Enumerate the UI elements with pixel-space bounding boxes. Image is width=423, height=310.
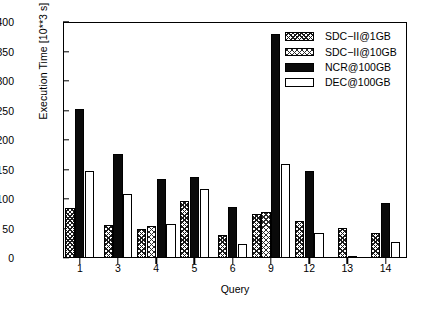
bar xyxy=(391,242,400,258)
bar xyxy=(305,171,314,258)
bar xyxy=(271,34,280,258)
x-tick-mark xyxy=(347,258,348,264)
legend-item: SDC−II@10GB xyxy=(285,45,397,58)
y-tick-label: 100 xyxy=(0,193,14,205)
legend-item: DEC@100GB xyxy=(285,76,397,89)
bar xyxy=(190,177,199,258)
y-tick-label: 0 xyxy=(0,252,14,264)
bar-group xyxy=(104,22,133,258)
bar xyxy=(200,189,209,258)
bar xyxy=(123,194,132,258)
bar xyxy=(104,225,113,258)
legend-swatch xyxy=(285,32,314,41)
legend-label: DEC@100GB xyxy=(325,77,391,88)
y-tick-label: 50 xyxy=(0,223,14,235)
legend-item: SDC−II@1GB xyxy=(285,30,397,43)
bar xyxy=(238,244,247,258)
bar xyxy=(157,179,166,258)
bar xyxy=(261,212,270,258)
bar xyxy=(295,221,304,258)
bar xyxy=(166,224,175,258)
bar xyxy=(85,171,94,258)
bar xyxy=(314,233,323,258)
y-axis-title: Execution Time [10**3 s] xyxy=(37,0,49,146)
bar xyxy=(371,233,380,258)
bar xyxy=(75,109,84,258)
x-axis-title: Query xyxy=(63,283,407,295)
legend-swatch xyxy=(285,78,314,87)
bar xyxy=(252,214,261,258)
x-tick-mark xyxy=(79,258,80,264)
x-tick-mark xyxy=(156,258,157,264)
x-tick-mark xyxy=(270,258,271,264)
y-tick-label: 150 xyxy=(0,164,14,176)
bar xyxy=(281,164,290,258)
bar-group xyxy=(218,22,247,258)
bar xyxy=(147,226,156,258)
y-tick-label: 300 xyxy=(0,75,14,87)
legend-swatch xyxy=(285,48,314,57)
y-tick-label: 350 xyxy=(0,46,14,58)
legend-swatch xyxy=(285,63,314,72)
legend-item: NCR@100GB xyxy=(285,61,397,74)
bar xyxy=(218,235,227,258)
bar xyxy=(180,201,189,258)
x-tick-mark xyxy=(117,258,118,264)
legend-label: SDC−II@1GB xyxy=(325,31,391,42)
chart-legend: SDC−II@1GBSDC−II@10GBNCR@100GBDEC@100GB xyxy=(285,30,397,92)
legend-label: NCR@100GB xyxy=(325,62,391,73)
x-tick-mark xyxy=(308,258,309,264)
bar xyxy=(348,256,357,258)
y-tick-label: 400 xyxy=(0,16,14,28)
bar-chart-figure: Execution Time [10**3 s] 050100150200250… xyxy=(0,0,423,310)
bar xyxy=(137,229,146,258)
x-tick-mark xyxy=(232,258,233,264)
bar xyxy=(113,154,122,258)
bar xyxy=(228,207,237,258)
x-tick-mark xyxy=(194,258,195,264)
x-tick-mark xyxy=(385,258,386,264)
bar xyxy=(338,228,347,258)
y-tick-label: 200 xyxy=(0,134,14,146)
bar-group xyxy=(65,22,94,258)
legend-label: SDC−II@10GB xyxy=(325,47,397,58)
bar xyxy=(381,203,390,258)
bar-group xyxy=(180,22,209,258)
y-tick-label: 250 xyxy=(0,105,14,117)
bar-group xyxy=(137,22,176,258)
bar xyxy=(65,208,74,258)
